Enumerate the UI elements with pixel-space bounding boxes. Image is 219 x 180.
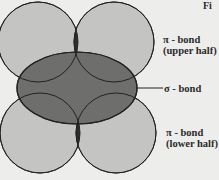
pi-upper-label-line1: π - bond xyxy=(163,34,217,45)
pi-lower-label-line2: (lower half) xyxy=(166,138,218,149)
pi-bond-upper-label: π - bond (upper half) xyxy=(163,34,217,56)
pi-upper-label-line2: (upper half) xyxy=(163,45,217,56)
sigma-label-text: σ - bond xyxy=(164,83,201,94)
pi-lower-label-line1: π - bond xyxy=(166,127,218,138)
figure-caption-fragment: Fi xyxy=(203,0,212,11)
pi-bond-lower-label: π - bond (lower half) xyxy=(166,127,218,149)
sigma-bond-label: σ - bond xyxy=(164,83,201,94)
